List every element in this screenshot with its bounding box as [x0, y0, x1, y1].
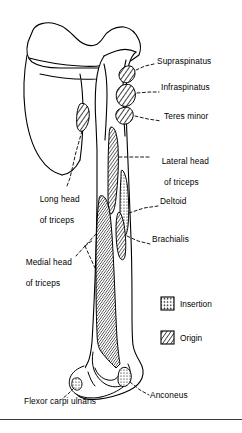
attachment-teres-minor: [116, 107, 133, 124]
leader-teres-minor: [135, 116, 161, 121]
legend-swatch-origin-shape: [161, 331, 174, 344]
attachment-infraspinatus: [116, 84, 135, 106]
label-flexor-carpi-ulnaris: Flexor carpi ulnaris: [24, 396, 96, 406]
label-lateral-head-of-triceps: Lateral head of triceps: [152, 146, 209, 197]
label-teres-minor: Teres minor: [164, 111, 208, 121]
leader-deltoid: [129, 206, 158, 213]
leader-infraspinatus: [137, 92, 159, 93]
label-long-head-of-triceps: Long head of triceps: [30, 184, 80, 235]
legend-item-origin: Origin: [180, 331, 202, 344]
label-brachialis: Brachialis: [152, 234, 189, 244]
label-long-head-line1: Long head: [40, 194, 80, 204]
leader-medial-head-lower: [85, 246, 95, 268]
legend-label-origin: Origin: [180, 333, 202, 343]
label-medial-head-line1: Medial head: [26, 257, 72, 267]
label-deltoid: Deltoid: [160, 196, 187, 206]
label-infraspinatus: Infraspinatus: [161, 82, 210, 92]
label-lateral-head-line1: Lateral head: [162, 156, 209, 166]
leader-supraspinatus: [136, 64, 154, 70]
label-anconeus: Anconeus: [150, 390, 188, 400]
legend-item-insertion: Insertion: [180, 297, 212, 310]
bottom-divider: [0, 419, 242, 420]
anatomy-figure: Supraspinatus Infraspinatus Teres minor …: [0, 0, 242, 433]
legend-swatch-insertion-shape: [161, 297, 174, 310]
legend-label-insertion: Insertion: [180, 299, 212, 309]
label-medial-head-line2: of triceps: [26, 278, 61, 288]
attachment-long-head-triceps: [77, 103, 90, 131]
label-supraspinatus: Supraspinatus: [157, 56, 211, 66]
label-medial-head-of-triceps: Medial head of triceps: [16, 247, 72, 298]
leader-medial-head-upper: [85, 240, 93, 246]
attachment-anconeus: [118, 367, 131, 386]
label-lateral-head-line2: of triceps: [162, 177, 199, 187]
label-long-head-line2: of triceps: [40, 215, 75, 225]
